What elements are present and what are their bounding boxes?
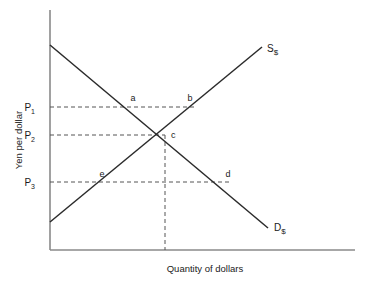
y-tick-label-p3: P3 xyxy=(24,177,35,190)
supply-curve-label: S$ xyxy=(267,43,279,57)
demand-curve-label: D$ xyxy=(274,222,286,236)
y-tick-p2-subscript: 2 xyxy=(31,136,35,143)
y-tick-labels-group: P1 P2 P3 xyxy=(24,102,35,190)
curve-labels-group: S$ D$ xyxy=(267,43,286,236)
y-axis-title: Yen per dollar xyxy=(13,111,24,169)
y-tick-label-p1: P1 xyxy=(24,102,35,115)
y-tick-p1-subscript: 1 xyxy=(31,108,35,115)
point-label-d: d xyxy=(225,169,230,179)
demand-curve xyxy=(50,45,268,228)
demand-label-base: D xyxy=(274,222,281,233)
y-tick-label-p2: P2 xyxy=(24,130,35,143)
curves-group xyxy=(50,45,268,228)
point-label-c: c xyxy=(171,130,176,140)
axes-group xyxy=(50,10,355,250)
supply-demand-chart: P1 P2 P3 a b c d e S$ D$ xyxy=(0,0,368,283)
chart-canvas: P1 P2 P3 a b c d e S$ D$ xyxy=(0,0,368,283)
point-label-a: a xyxy=(130,93,135,103)
point-label-e: e xyxy=(99,169,104,179)
x-axis-title: Quantity of dollars xyxy=(167,263,244,274)
supply-label-subscript: $ xyxy=(274,48,279,57)
demand-label-subscript: $ xyxy=(281,227,286,236)
y-tick-p3-subscript: 3 xyxy=(31,183,35,190)
point-label-b: b xyxy=(187,93,192,103)
guide-lines-group xyxy=(50,107,231,250)
